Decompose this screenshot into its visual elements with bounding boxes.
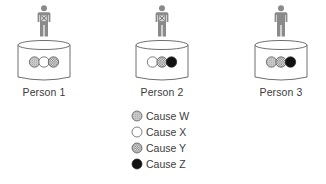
legend-label: Cause W <box>146 110 189 122</box>
legend-item-cause-y: Cause Y <box>131 140 231 156</box>
cause-x-icon <box>147 57 157 67</box>
person-label: Person 3 <box>241 86 321 98</box>
person-2-graphic <box>122 0 202 86</box>
cause-w-icon <box>131 110 143 122</box>
cause-w-icon <box>266 57 276 67</box>
person-3-group: Person 3 <box>241 0 321 100</box>
person-1-graphic <box>4 0 84 86</box>
person-2-group: Person 2 <box>122 0 202 100</box>
person-label: Person 2 <box>122 86 202 98</box>
cause-x-icon <box>39 57 49 67</box>
legend-item-cause-x: Cause X <box>131 124 231 140</box>
cause-z-icon <box>166 57 176 67</box>
cause-w-icon <box>29 57 39 67</box>
person-1-group: Person 1 <box>4 0 84 100</box>
person-icon <box>275 5 288 36</box>
cause-x-icon <box>131 126 143 138</box>
legend-label: Cause Z <box>146 158 186 170</box>
cause-z-icon <box>285 57 295 67</box>
legend-item-cause-z: Cause Z <box>131 156 231 172</box>
diagnosis-mark-icon <box>159 16 165 22</box>
legend-label: Cause Y <box>146 142 186 154</box>
legend-item-cause-w: Cause W <box>131 108 231 124</box>
cause-z-icon <box>131 158 143 170</box>
cause-y-icon <box>157 57 167 67</box>
legend-label: Cause X <box>146 126 186 138</box>
cause-y-icon <box>276 57 286 67</box>
cause-y-icon <box>48 57 58 67</box>
legend: Cause W Cause X Cause Y Cause Z <box>131 108 231 172</box>
person-label: Person 1 <box>4 86 84 98</box>
diagnosis-mark-icon <box>41 16 47 22</box>
person-3-graphic <box>241 0 321 86</box>
cause-y-icon <box>131 142 143 154</box>
